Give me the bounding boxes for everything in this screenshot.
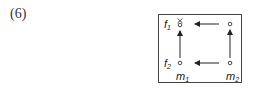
- col-label-m1: m1: [176, 70, 189, 83]
- lattice-diagram: f1 f2 m1 m2: [0, 0, 261, 88]
- row-label-f1: f1: [164, 18, 171, 31]
- col-label-m2: m2: [226, 70, 239, 83]
- node-f2m2-icon: [228, 61, 232, 65]
- node-f1m2-icon: [228, 22, 232, 26]
- node-f2m1-icon: [178, 61, 182, 65]
- node-f1m1-selected-icon: [178, 19, 183, 27]
- row-label-f2: f2: [164, 57, 171, 70]
